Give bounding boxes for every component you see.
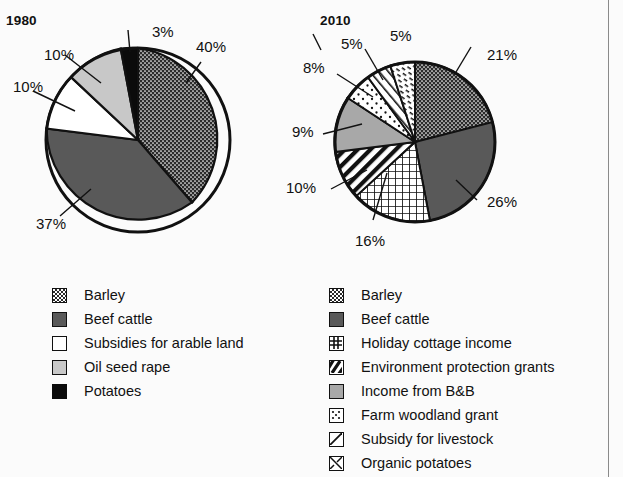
pct-label-environment-2010: 10% bbox=[286, 179, 316, 196]
pct-label-beef-1980: 37% bbox=[36, 215, 66, 232]
legend-label: Beef cattle bbox=[361, 311, 430, 327]
leader-line-organic-2010 bbox=[313, 34, 321, 50]
pct-label-subsidies-1980: 10% bbox=[13, 78, 43, 95]
chart-title-1980: 1980 bbox=[6, 13, 37, 28]
pie-chart-1980 bbox=[38, 36, 243, 246]
legend-label: Potatoes bbox=[84, 383, 141, 399]
pie-chart-2010 bbox=[325, 52, 505, 232]
legend-label: Oil seed rape bbox=[84, 359, 170, 375]
legend-swatch-beef-icon bbox=[329, 312, 344, 327]
legend-2010: Barley Beef cattle Holiday cottage incom… bbox=[329, 283, 554, 475]
legend-item-beef-1980: Beef cattle bbox=[52, 307, 244, 331]
legend-item-potatoes-1980: Potatoes bbox=[52, 379, 244, 403]
leader-line-barley-2010 bbox=[456, 47, 471, 72]
legend-label: Income from B&B bbox=[361, 383, 475, 399]
legend-swatch-holiday-cottage-icon bbox=[329, 336, 344, 351]
legend-item-subsidies-1980: Subsidies for arable land bbox=[52, 331, 244, 355]
page-border-rule bbox=[608, 0, 609, 477]
legend-swatch-potatoes-icon bbox=[52, 384, 67, 399]
legend-item-livestock-2010: Subsidy for livestock bbox=[329, 427, 554, 451]
pct-label-holiday-2010: 16% bbox=[355, 232, 385, 249]
legend-swatch-organic-potatoes-icon bbox=[329, 456, 344, 471]
legend-item-organic-2010: Organic potatoes bbox=[329, 451, 554, 475]
legend-swatch-oilseed-icon bbox=[52, 360, 67, 375]
legend-swatch-beef-icon bbox=[52, 312, 67, 327]
legend-item-oilseed-1980: Oil seed rape bbox=[52, 355, 244, 379]
legend-label: Barley bbox=[361, 287, 402, 303]
pct-label-organic-2010: 5% bbox=[390, 27, 412, 44]
figure-canvas: 1980 bbox=[0, 0, 623, 477]
pct-label-woodland-2010: 8% bbox=[303, 59, 325, 76]
legend-item-bnb-2010: Income from B&B bbox=[329, 379, 554, 403]
legend-swatch-barley-icon bbox=[329, 288, 344, 303]
legend-swatch-barley-icon bbox=[52, 288, 67, 303]
legend-swatch-subsidies-icon bbox=[52, 336, 67, 351]
legend-item-barley-1980: Barley bbox=[52, 283, 244, 307]
legend-label: Farm woodland grant bbox=[361, 407, 498, 423]
legend-label: Beef cattle bbox=[84, 311, 153, 327]
legend-swatch-environment-grants-icon bbox=[329, 360, 344, 375]
pct-label-barley-1980: 40% bbox=[196, 38, 226, 55]
pct-label-bnb-2010: 9% bbox=[292, 123, 314, 140]
legend-1980: Barley Beef cattle Subsidies for arable … bbox=[52, 283, 244, 403]
chart-title-2010: 2010 bbox=[320, 13, 351, 28]
legend-item-woodland-2010: Farm woodland grant bbox=[329, 403, 554, 427]
legend-label: Barley bbox=[84, 287, 125, 303]
pct-label-potatoes-1980: 3% bbox=[152, 23, 174, 40]
legend-swatch-farm-woodland-icon bbox=[329, 408, 344, 423]
legend-label: Holiday cottage income bbox=[361, 335, 512, 351]
pct-label-beef-2010: 26% bbox=[487, 193, 517, 210]
pct-label-barley-2010: 21% bbox=[487, 46, 517, 63]
legend-label: Environment protection grants bbox=[361, 359, 554, 375]
legend-label: Subsidy for livestock bbox=[361, 431, 493, 447]
pct-label-oilseed-1980: 10% bbox=[44, 46, 74, 63]
legend-label: Subsidies for arable land bbox=[84, 335, 244, 351]
legend-swatch-bnb-icon bbox=[329, 384, 344, 399]
legend-item-holiday-2010: Holiday cottage income bbox=[329, 331, 554, 355]
pct-label-livestock-2010: 5% bbox=[341, 35, 363, 52]
legend-label: Organic potatoes bbox=[361, 455, 471, 471]
legend-swatch-subsidy-livestock-icon bbox=[329, 432, 344, 447]
legend-item-beef-2010: Beef cattle bbox=[329, 307, 554, 331]
legend-item-barley-2010: Barley bbox=[329, 283, 554, 307]
legend-item-environment-2010: Environment protection grants bbox=[329, 355, 554, 379]
